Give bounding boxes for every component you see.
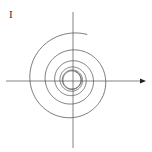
spiral-trajectory: [30, 33, 106, 118]
x-axis-arrow-icon: [140, 79, 146, 84]
phase-portrait: [0, 0, 152, 152]
